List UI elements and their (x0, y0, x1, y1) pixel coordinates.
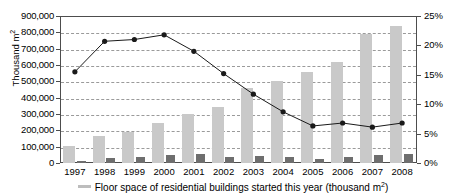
x-axis-tick-labels: 1997199819992000200120022003200420052006… (60, 166, 417, 179)
right-axis-tick-mark (417, 104, 421, 105)
left-axis-tick-mark (56, 163, 60, 164)
bar-light (93, 136, 105, 163)
bar-light (122, 132, 134, 163)
legend-label-main: Floor space of residential buildings sta… (95, 182, 381, 193)
right-axis-tick-label: 25% (424, 11, 464, 21)
bar-light (182, 114, 194, 163)
right-axis-tick-label: 0% (424, 158, 464, 168)
bar-light (241, 88, 253, 163)
bar-dark (225, 157, 234, 163)
bar-dark (166, 155, 175, 163)
bar-dark (196, 154, 205, 163)
bar-dark (106, 158, 115, 163)
bar-light (271, 81, 283, 163)
right-axis-tick-label: 15% (424, 70, 464, 80)
bar-dark (77, 161, 86, 163)
right-axis-tick-mark (417, 45, 421, 46)
left-axis-tick-label: 600,000 (0, 60, 54, 70)
right-axis-tick-mark (417, 16, 421, 17)
legend-label: Floor space of residential buildings sta… (95, 179, 389, 194)
x-axis-tick-label: 2008 (382, 166, 422, 177)
bar-light (331, 62, 343, 163)
left-axis-tick-label: 300,000 (0, 109, 54, 119)
bar-dark (344, 157, 353, 163)
bar-dark (374, 155, 383, 163)
left-axis-tick-label: 100,000 (0, 142, 54, 152)
legend-swatch-icon (78, 185, 91, 188)
right-axis-tick-mark (417, 163, 421, 164)
left-axis-tick-label: 400,000 (0, 93, 54, 103)
left-axis-tick-label: 800,000 (0, 27, 54, 37)
bar-dark (315, 159, 324, 163)
bar-dark (136, 157, 145, 163)
right-axis-tick-mark (417, 134, 421, 135)
chart-legend: Floor space of residential buildings sta… (0, 179, 466, 195)
bar-light (360, 34, 372, 163)
left-axis-tick-label: 700,000 (0, 44, 54, 54)
right-axis-tick-label: 10% (424, 99, 464, 109)
bar-light (390, 26, 402, 163)
right-axis-tick-mark (417, 75, 421, 76)
right-axis-tick-label: 20% (424, 40, 464, 50)
left-axis-tick-label: 0 (0, 158, 54, 168)
left-axis-tick-label: 500,000 (0, 76, 54, 86)
bar-light (63, 146, 75, 163)
right-axis-tick-label: 5% (424, 129, 464, 139)
chart-root: Thousand m2 0100,000200,000300,000400,00… (0, 0, 466, 195)
bar-series-layer (60, 16, 417, 163)
legend-label-tail: ) (385, 182, 388, 193)
left-axis-tick-label: 900,000 (0, 11, 54, 21)
bar-light (212, 107, 224, 163)
bar-light (152, 123, 164, 163)
legend-item: Floor space of residential buildings sta… (78, 179, 389, 194)
bar-dark (285, 157, 294, 163)
bar-dark (404, 154, 413, 163)
left-axis-tick-label: 200,000 (0, 125, 54, 135)
bar-light (301, 72, 313, 163)
bar-dark (255, 156, 264, 163)
